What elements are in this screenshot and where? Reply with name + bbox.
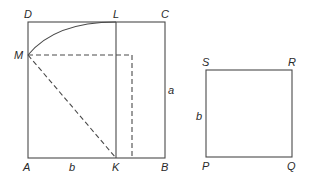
square-pqrs [206, 70, 292, 157]
arc-m-to-l [28, 22, 116, 55]
diagram-canvas: D L C M a A b K B S R b P Q [0, 0, 310, 179]
label-d: D [24, 8, 32, 20]
figure-abcd [28, 22, 165, 158]
label-p: P [202, 160, 210, 172]
square-abcd [28, 22, 165, 158]
label-b-bottom: b [69, 161, 75, 173]
label-a: A [22, 161, 30, 173]
label-s: S [202, 56, 210, 68]
label-k: K [112, 161, 120, 173]
label-r: R [288, 56, 296, 68]
geometry-figure: D L C M a A b K B S R b P Q [0, 0, 310, 179]
label-b: B [161, 161, 168, 173]
label-m: M [14, 49, 24, 61]
dashed-segment-mk [28, 55, 116, 158]
label-b-left: b [196, 110, 202, 122]
label-q: Q [287, 160, 296, 172]
label-l: L [113, 8, 119, 20]
label-a-side: a [168, 84, 174, 96]
label-c: C [161, 8, 169, 20]
